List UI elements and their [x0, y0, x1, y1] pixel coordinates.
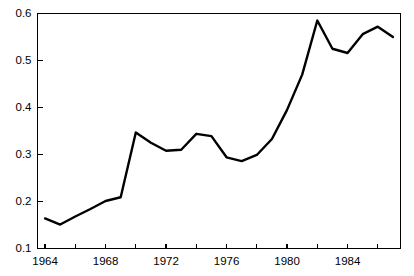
x-tick-label: 1976: [214, 255, 240, 267]
x-tick-label: 1980: [274, 255, 300, 267]
y-tick-label: 0.3: [16, 148, 32, 160]
y-tick-label: 0.4: [16, 101, 33, 113]
chart-container: 0.10.20.30.40.50.6 196419681972197619801…: [0, 0, 414, 276]
x-tick-label: 1984: [335, 255, 361, 267]
y-tick-label: 0.5: [16, 54, 32, 66]
x-tick-label: 1964: [32, 255, 58, 267]
chart-background: [0, 0, 414, 276]
x-tick-label: 1972: [153, 255, 179, 267]
y-tick-label: 0.1: [16, 242, 32, 254]
y-tick-label: 0.2: [16, 195, 32, 207]
line-chart: 0.10.20.30.40.50.6 196419681972197619801…: [0, 0, 414, 276]
y-tick-label: 0.6: [16, 7, 32, 19]
x-tick-label: 1968: [93, 255, 119, 267]
